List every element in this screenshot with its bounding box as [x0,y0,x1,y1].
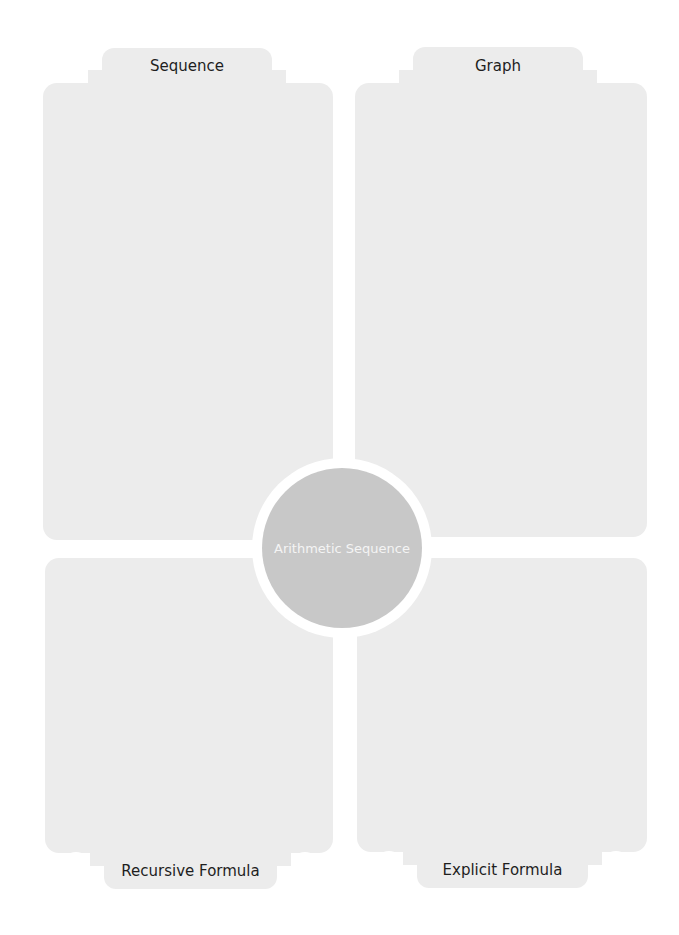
graph-tab: Graph [413,47,583,84]
tab-fillet [583,70,597,84]
sequence-label: Sequence [150,57,224,75]
center-concept-circle: Arithmetic Sequence [262,468,422,628]
graph-panel[interactable] [355,83,647,537]
tab-fillet [88,70,102,84]
tab-fillet [277,852,291,866]
recursive-formula-label: Recursive Formula [121,862,259,880]
tab-fillet [403,851,417,865]
tab-fillet [588,851,602,865]
recursive-formula-tab: Recursive Formula [104,852,277,889]
tab-fillet [399,70,413,84]
tab-fillet [272,70,286,84]
sequence-panel[interactable] [43,83,333,540]
tab-fillet [90,852,104,866]
center-concept-label: Arithmetic Sequence [274,541,410,556]
explicit-formula-tab: Explicit Formula [417,851,588,888]
graph-label: Graph [475,57,521,75]
sequence-tab: Sequence [102,48,272,84]
explicit-formula-label: Explicit Formula [443,861,563,879]
